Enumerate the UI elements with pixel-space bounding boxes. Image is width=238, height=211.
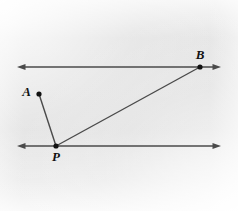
point-P-label: P [52, 149, 61, 164]
point-B-dot [197, 64, 202, 69]
geometry-figure: ABP [0, 0, 238, 211]
point-A-dot [36, 91, 41, 96]
point-A-label: A [21, 84, 31, 99]
figure-canvas: ABP [0, 0, 238, 211]
point-B-label: B [195, 47, 205, 62]
figure-background [0, 0, 238, 211]
point-P-dot [53, 143, 58, 148]
